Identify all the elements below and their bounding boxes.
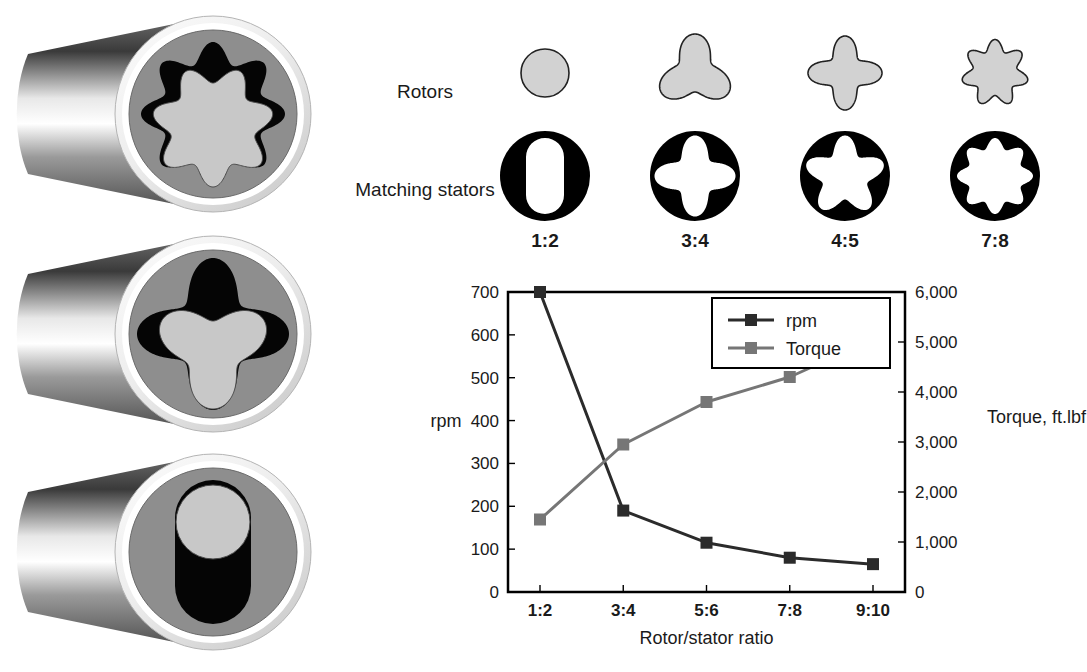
- y2-axis-tick-label: 2,000: [915, 483, 958, 502]
- shape-column-3-4: 3:4: [630, 18, 760, 280]
- y-axis-tick-label: 200: [471, 497, 499, 516]
- x-axis-tick-label: 7:8: [777, 601, 802, 620]
- x-axis-tick-label: 3:4: [611, 601, 636, 620]
- x-axis-tick-label: 9:10: [856, 601, 890, 620]
- y-axis-title: rpm: [431, 411, 462, 431]
- ratio-label-1-2: 1:2: [480, 230, 610, 252]
- shape-column-7-8: 7:8: [930, 18, 1060, 280]
- data-point-torque: [617, 439, 629, 451]
- y-axis-tick-label: 700: [471, 283, 499, 302]
- y2-axis-tick-label: 4,000: [915, 383, 958, 402]
- data-point-rpm: [534, 286, 546, 298]
- stator-shape-1-2: [480, 128, 610, 224]
- cylinder-illustrations: [0, 0, 330, 672]
- shape-column-4-5: 4:5: [780, 18, 910, 280]
- y2-axis-tick-label: 3,000: [915, 433, 958, 452]
- rotor-shape-3-4: [630, 28, 760, 118]
- y2-axis-tick-label: 1,000: [915, 533, 958, 552]
- data-point-rpm: [617, 505, 629, 517]
- legend-label-torque: Torque: [786, 339, 841, 359]
- y-axis-tick-label: 300: [471, 454, 499, 473]
- x-axis-title: Rotor/stator ratio: [639, 628, 773, 648]
- data-point-rpm: [784, 552, 796, 564]
- data-point-torque: [534, 514, 546, 526]
- cylinder-illustration-1-2: [0, 440, 330, 664]
- y-axis-tick-label: 500: [471, 369, 499, 388]
- legend-label-rpm: rpm: [786, 311, 817, 331]
- matching-stators-row-label: Matching stators: [350, 178, 500, 201]
- rotor-shape-7-8: [930, 28, 1060, 118]
- stator-shape-4-5: [780, 128, 910, 224]
- x-axis-tick-label: 1:2: [528, 601, 553, 620]
- y-axis-tick-label: 0: [490, 583, 499, 602]
- rotor-shape-4-5: [780, 28, 910, 118]
- ratio-label-3-4: 3:4: [630, 230, 760, 252]
- stator-shape-7-8: [930, 128, 1060, 224]
- rotor-shape-1-2: [480, 28, 610, 118]
- y-axis-tick-label: 100: [471, 540, 499, 559]
- y2-axis-tick-label: 6,000: [915, 283, 958, 302]
- ratio-label-7-8: 7:8: [930, 230, 1060, 252]
- x-axis-tick-label: 5:6: [694, 601, 719, 620]
- y2-axis-tick-label: 5,000: [915, 333, 958, 352]
- performance-chart: 010020030040050060070001,0002,0003,0004,…: [420, 282, 1087, 672]
- y2-axis-tick-label: 0: [915, 583, 924, 602]
- ratio-label-4-5: 4:5: [780, 230, 910, 252]
- shape-column-1-2: 1:2: [480, 18, 610, 280]
- rotors-row-label: Rotors: [350, 80, 500, 103]
- y2-axis-title: Torque, ft.lbf: [987, 407, 1087, 427]
- cylinder-illustration-7-8: [0, 2, 330, 226]
- data-point-rpm: [701, 537, 713, 549]
- cylinder-illustration-3-4: [0, 222, 330, 446]
- rotor-stator-table: Rotors Matching stators 1:23:44:57:8: [330, 18, 1087, 280]
- y-axis-tick-label: 400: [471, 412, 499, 431]
- data-point-torque: [701, 396, 713, 408]
- data-point-rpm: [867, 558, 879, 570]
- data-point-torque: [784, 371, 796, 383]
- y-axis-tick-label: 600: [471, 326, 499, 345]
- stator-shape-3-4: [630, 128, 760, 224]
